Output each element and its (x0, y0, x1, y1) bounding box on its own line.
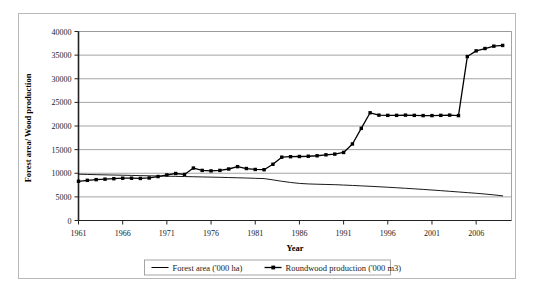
data-point-marker (439, 114, 442, 117)
x-tick-label: 1961 (71, 229, 87, 238)
data-point-marker (201, 169, 204, 172)
data-point-marker (368, 111, 371, 114)
y-tick-label: 5000 (56, 193, 72, 202)
legend-label: Forest area ('000 ha) (173, 263, 243, 273)
data-point-marker (121, 177, 124, 180)
data-point-marker (236, 165, 239, 168)
x-tick-label: 2006 (468, 229, 484, 238)
data-point-marker (192, 166, 195, 169)
legend-marker-sample (271, 266, 275, 270)
y-tick-label: 35000 (52, 51, 72, 60)
data-point-marker (156, 175, 159, 178)
data-point-marker (342, 151, 345, 154)
y-tick-label: 40000 (52, 28, 72, 37)
x-tick-label: 1976 (203, 229, 219, 238)
data-point-marker (307, 155, 310, 158)
data-point-marker (218, 169, 221, 172)
y-tick-label: 15000 (52, 146, 72, 155)
data-point-marker (333, 152, 336, 155)
data-point-marker (298, 155, 301, 158)
data-point-marker (351, 142, 354, 145)
data-point-marker (77, 180, 80, 183)
data-point-marker (147, 176, 150, 179)
data-point-marker (280, 155, 283, 158)
data-point-marker (386, 114, 389, 117)
data-point-marker (360, 127, 363, 130)
x-tick-label: 1981 (247, 229, 263, 238)
data-point-marker (377, 113, 380, 116)
x-tick-label: 1971 (159, 229, 175, 238)
y-tick-label: 0 (68, 217, 72, 226)
x-tick-label: 1991 (336, 229, 352, 238)
data-point-marker (324, 153, 327, 156)
data-point-marker (483, 47, 486, 50)
data-point-marker (315, 154, 318, 157)
data-point-marker (289, 155, 292, 158)
y-tick-label: 20000 (52, 122, 72, 131)
legend-item[interactable]: Roundwood production ('000 m3) (265, 263, 402, 273)
data-point-marker (227, 167, 230, 170)
data-point-marker (448, 113, 451, 116)
data-point-marker (94, 178, 97, 181)
data-point-marker (112, 177, 115, 180)
line-chart: 0500010000150002000025000300003500040000… (0, 0, 534, 292)
x-tick-label: 1966 (115, 229, 131, 238)
x-tick-label: 1986 (291, 229, 307, 238)
data-point-marker (421, 114, 424, 117)
data-point-marker (245, 167, 248, 170)
data-point-marker (457, 114, 460, 117)
chart-figure: 0500010000150002000025000300003500040000… (0, 0, 534, 292)
data-point-marker (130, 177, 133, 180)
y-tick-label: 25000 (52, 98, 72, 107)
legend-label: Roundwood production ('000 m3) (286, 263, 402, 273)
data-point-marker (103, 177, 106, 180)
x-tick-label: 1996 (380, 229, 396, 238)
data-point-marker (466, 55, 469, 58)
data-point-marker (262, 168, 265, 171)
data-point-marker (174, 172, 177, 175)
data-point-marker (139, 177, 142, 180)
x-tick-label: 2001 (424, 229, 440, 238)
data-point-marker (86, 179, 89, 182)
data-point-marker (501, 44, 504, 47)
y-axis-title: Forest area/ Wood production (23, 73, 33, 182)
x-axis-title: Year (287, 243, 304, 253)
y-tick-label: 10000 (52, 169, 72, 178)
data-point-marker (404, 113, 407, 116)
data-point-marker (254, 168, 257, 171)
data-point-marker (209, 169, 212, 172)
data-point-marker (183, 173, 186, 176)
data-point-marker (492, 44, 495, 47)
data-point-marker (430, 114, 433, 117)
data-point-marker (413, 114, 416, 117)
data-point-marker (474, 49, 477, 52)
chart-background (0, 0, 534, 292)
chart-legend: Forest area ('000 ha)Roundwood productio… (145, 260, 402, 275)
y-tick-label: 30000 (52, 75, 72, 84)
data-point-marker (395, 114, 398, 117)
data-point-marker (271, 163, 274, 166)
data-point-marker (165, 173, 168, 176)
